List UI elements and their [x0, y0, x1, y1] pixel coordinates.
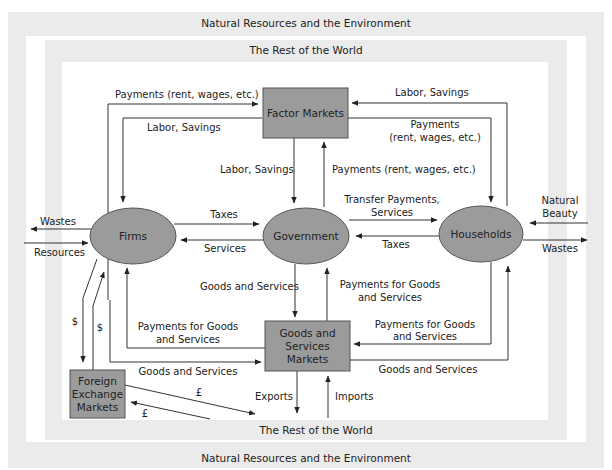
label-gov-households-transfer-1: Transfer Payments, — [343, 194, 440, 205]
label-world-fx-pound: £ — [142, 408, 148, 419]
label-fx-firms-dollar: $ — [97, 322, 103, 333]
label-households-gov-taxes: Taxes — [381, 239, 410, 250]
label-gsm-households-goods: Goods and Services — [379, 364, 478, 375]
label-firms-fx-dollar: $ — [72, 316, 78, 327]
outer-bottom-label: Natural Resources and the Environment — [201, 452, 411, 464]
circular-flow-diagram: Natural Resources and the Environment Th… — [0, 0, 612, 470]
label-natural-beauty-1: Natural — [542, 195, 579, 206]
government-label: Government — [273, 230, 338, 242]
goods-services-markets-node: Goods and Services Markets — [265, 321, 350, 371]
gsm-label-line2: Services — [285, 340, 329, 352]
label-gsm-gov-payments-1: Payments for Goods — [340, 279, 441, 290]
label-firms-gov-taxes: Taxes — [209, 209, 238, 220]
label-gov-households-transfer-2: Services — [371, 207, 413, 218]
inner-top-label: The Rest of the World — [248, 44, 362, 56]
label-fx-world-pound: £ — [196, 387, 202, 398]
label-exports: Exports — [255, 391, 293, 402]
label-factor-gov-labor: Labor, Savings — [220, 164, 294, 175]
label-gov-factor-payments: Payments (rent, wages, etc.) — [332, 164, 476, 175]
label-gsm-firms-payments-1: Payments for Goods — [138, 321, 239, 332]
label-households-gsm-payments-2: and Services — [393, 331, 457, 342]
label-firms-resources: Resources — [34, 247, 85, 258]
label-gov-gsm-goods: Goods and Services — [200, 281, 299, 292]
label-gsm-gov-payments-2: and Services — [358, 292, 422, 303]
label-natural-beauty-2: Beauty — [542, 208, 577, 219]
households-node: Households — [439, 206, 523, 262]
households-label: Households — [450, 228, 511, 240]
factor-markets-label: Factor Markets — [267, 107, 344, 119]
label-firms-gsm-goods: Goods and Services — [139, 366, 238, 377]
label-gsm-firms-payments-2: and Services — [156, 334, 220, 345]
gsm-label-line3: Markets — [287, 353, 329, 365]
label-factor-firms-labor: Labor, Savings — [147, 122, 221, 133]
foreign-exchange-markets-node: Foreign Exchange Markets — [70, 370, 125, 418]
label-firms-factor-payments: Payments (rent, wages, etc.) — [115, 89, 259, 100]
fx-label-line2: Exchange — [72, 388, 123, 400]
factor-markets-node: Factor Markets — [263, 88, 348, 138]
inner-bottom-label: The Rest of the World — [258, 424, 372, 436]
label-gov-firms-services: Services — [204, 243, 246, 254]
label-households-gsm-payments-1: Payments for Goods — [375, 319, 476, 330]
outer-top-label: Natural Resources and the Environment — [201, 17, 411, 29]
label-factor-households-payments-1: Payments — [411, 119, 460, 130]
fx-label-line1: Foreign — [78, 375, 117, 387]
label-firms-wastes: Wastes — [40, 216, 76, 227]
gsm-label-line1: Goods and — [279, 327, 335, 339]
fx-label-line3: Markets — [77, 401, 119, 413]
label-imports: Imports — [335, 391, 373, 402]
firms-node: Firms — [90, 208, 176, 264]
government-node: Government — [263, 208, 349, 264]
label-households-wastes: Wastes — [542, 243, 578, 254]
firms-label: Firms — [119, 230, 147, 242]
label-factor-households-payments-2: (rent, wages, etc.) — [389, 132, 481, 143]
label-households-factor-labor: Labor, Savings — [395, 87, 469, 98]
